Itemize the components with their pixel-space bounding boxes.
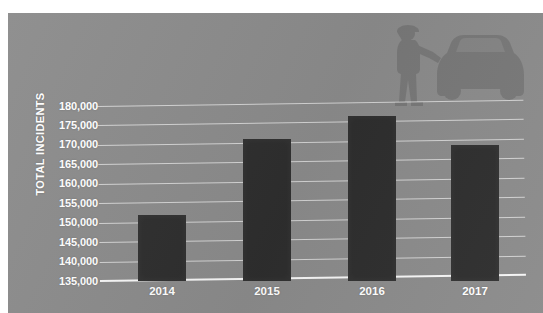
y-axis-tick-label: 155,000	[59, 197, 98, 209]
bar-2016[interactable]	[348, 116, 396, 281]
y-axis-tick-labels: 180,000 175,000 170,000 165,000 160,000 …	[44, 106, 98, 281]
x-axis-tick-label-2014: 2014	[127, 285, 197, 297]
y-axis-tick-label: 160,000	[59, 177, 98, 189]
x-axis-tick-label-2017: 2017	[440, 285, 510, 297]
bar-2014[interactable]	[138, 215, 186, 281]
y-axis-tick-label: 145,000	[59, 236, 98, 248]
bar-2015[interactable]	[243, 139, 291, 281]
car-break-in-silhouette-icon	[375, 17, 537, 113]
y-axis-tick-label: 165,000	[59, 158, 98, 170]
x-axis-tick-label-2015: 2015	[232, 285, 302, 297]
y-axis-tick-label: 180,000	[59, 100, 98, 112]
chart-panel: TOTAL INCIDENTS 180,000 175,000 170,000 …	[8, 13, 543, 313]
x-axis-tick-label-2016: 2016	[337, 285, 407, 297]
y-axis-tick-label: 170,000	[59, 138, 98, 150]
y-axis-tick-label: 135,000	[59, 275, 98, 287]
y-axis-tick-label: 140,000	[59, 255, 98, 267]
y-axis-tick-label: 175,000	[59, 119, 98, 131]
chart-screenshot: TOTAL INCIDENTS 180,000 175,000 170,000 …	[0, 0, 543, 313]
bar-group	[100, 106, 526, 281]
plot-area	[100, 106, 526, 281]
y-axis-tick-label: 150,000	[59, 216, 98, 228]
bar-2017[interactable]	[451, 145, 499, 281]
x-axis-tick-labels: 2014 2015 2016 2017	[100, 285, 526, 305]
